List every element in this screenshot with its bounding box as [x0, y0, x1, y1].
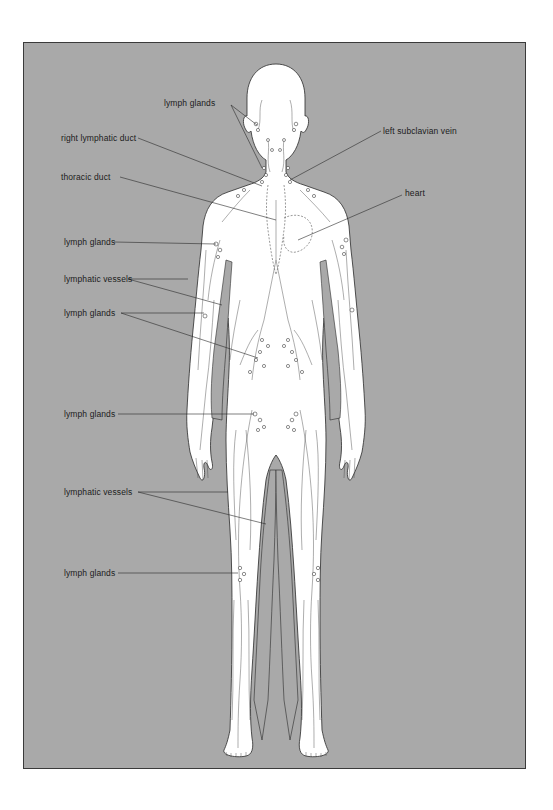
body-silhouette: [187, 64, 366, 757]
label-right-lymphatic-duct: right lymphatic duct: [61, 133, 136, 143]
label-left-subclavian-vein: left subclavian vein: [383, 126, 457, 136]
label-thoracic-duct: thoracic duct: [61, 172, 111, 182]
label-lymph-glands-groin: lymph glands: [64, 409, 115, 419]
label-lymph-glands-head: lymph glands: [164, 98, 215, 108]
label-lymphatic-vessels-leg: lymphatic vessels: [64, 487, 132, 497]
label-lymph-glands-knee: lymph glands: [64, 568, 115, 578]
label-heart: heart: [405, 188, 425, 198]
label-lymph-glands-axilla: lymph glands: [64, 237, 115, 247]
label-lymph-glands-elbow: lymph glands: [64, 308, 115, 318]
lymphatic-system-illustration: [0, 0, 553, 810]
label-lymphatic-vessels-arm: lymphatic vessels: [64, 274, 132, 284]
